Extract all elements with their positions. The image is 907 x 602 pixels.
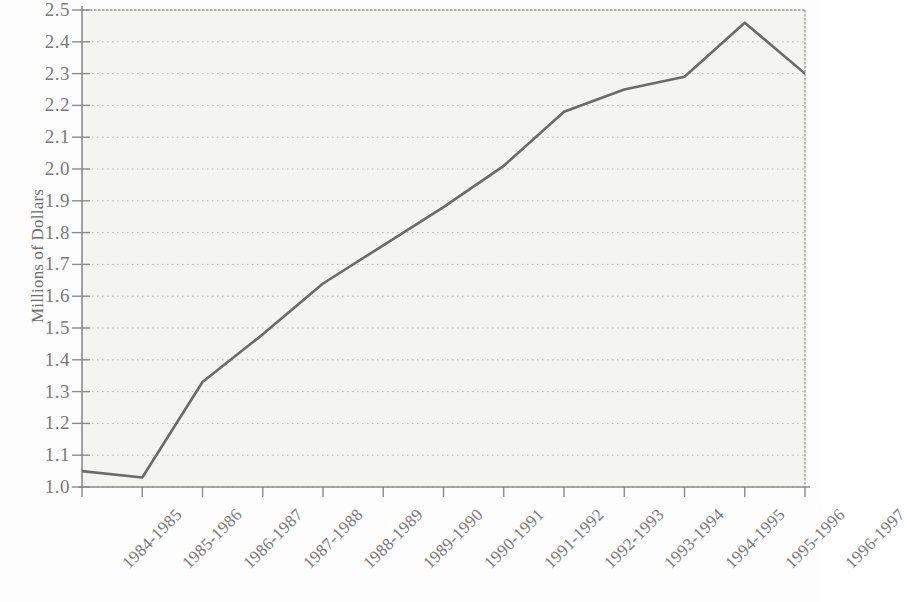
x-axis-tick-label: 1985-1986 <box>179 505 247 573</box>
x-axis-tick-label: 1996-1997 <box>841 505 907 573</box>
x-axis-tick-label: 1995-1996 <box>781 505 849 573</box>
x-axis-tick-label: 1990-1991 <box>480 505 548 573</box>
x-axis-tick-label: 1992-1993 <box>600 505 668 573</box>
x-axis-tick-label: 1986-1987 <box>239 505 307 573</box>
x-axis-tick-label: 1991-1992 <box>540 505 608 573</box>
x-axis-tick-label: 1989-1990 <box>420 505 488 573</box>
x-axis-tick-label: 1988-1989 <box>359 505 427 573</box>
x-axis-tick-label: 1994-1995 <box>721 505 789 573</box>
x-axis-tick-label: 1984-1985 <box>118 505 186 573</box>
x-axis-tick-label: 1993-1994 <box>661 505 729 573</box>
x-axis-tick-label: 1987-1988 <box>299 505 367 573</box>
